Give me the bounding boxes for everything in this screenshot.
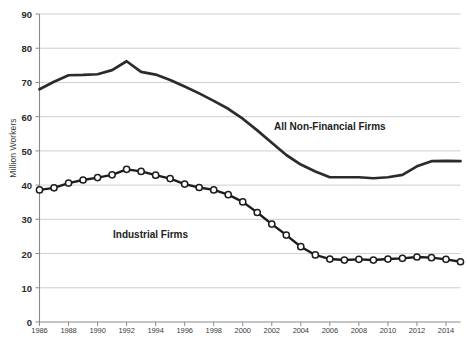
data-point-marker — [36, 187, 42, 193]
x-tick-marks — [40, 322, 446, 326]
data-point-marker — [457, 259, 463, 265]
data-point-marker — [327, 256, 333, 262]
data-point-marker — [298, 244, 304, 250]
data-point-marker — [80, 177, 86, 183]
data-point-marker — [269, 221, 275, 227]
data-point-marker — [283, 232, 289, 238]
data-point-marker — [356, 256, 362, 262]
data-point-marker — [399, 255, 405, 261]
series-line — [40, 169, 461, 261]
series-label-industrial-firms: Industrial Firms — [113, 229, 188, 240]
data-point-marker — [312, 252, 318, 258]
y-tick-marks — [36, 14, 40, 322]
data-point-marker — [443, 256, 449, 262]
data-point-marker — [182, 181, 188, 187]
data-point-marker — [153, 172, 159, 178]
series-industrial-firms — [36, 166, 463, 265]
data-point-marker — [225, 192, 231, 198]
gridlines — [40, 14, 461, 288]
data-point-marker — [65, 180, 71, 186]
series-line — [40, 61, 461, 178]
series-label-all-non-financial-firms: All Non-Financial Firms — [274, 121, 386, 132]
data-point-marker — [167, 176, 173, 182]
data-point-marker — [211, 187, 217, 193]
data-point-marker — [414, 254, 420, 260]
data-point-marker — [138, 168, 144, 174]
data-point-marker — [109, 172, 115, 178]
data-point-marker — [341, 257, 347, 263]
data-point-marker — [51, 185, 57, 191]
data-point-marker — [94, 174, 100, 180]
chart-container: Million Workers 0102030405060708090 1986… — [0, 0, 467, 359]
data-point-marker — [196, 184, 202, 190]
data-point-marker — [370, 257, 376, 263]
plot-area — [0, 0, 467, 359]
data-point-marker — [428, 255, 434, 261]
data-point-marker — [254, 209, 260, 215]
data-point-marker — [240, 199, 246, 205]
data-point-marker — [124, 166, 130, 172]
data-point-marker — [385, 256, 391, 262]
series-all-non-financial-firms — [40, 61, 461, 178]
